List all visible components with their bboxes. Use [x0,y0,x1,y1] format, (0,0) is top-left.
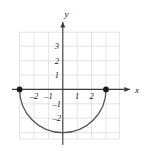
y-axis [60,22,65,145]
coordinate-plane: –2 –1 1 2 3 2 1 –1 –2 x y [0,0,147,151]
x-tick-label-2: 2 [89,91,94,101]
y-axis-arrowhead [60,22,65,28]
left-endpoint-dot [17,87,23,93]
graph-figure: –2 –1 1 2 3 2 1 –1 –2 x y [0,0,147,151]
y-axis-name-label: y [64,9,69,19]
right-endpoint-dot [103,87,109,93]
x-tick-label-1: 1 [75,91,79,101]
y-tick-label-neg1: –1 [52,99,62,109]
x-tick-label-neg1: –1 [43,91,53,101]
y-tick-label-neg2: –2 [52,113,62,123]
x-tick-label-neg2: –2 [29,91,39,101]
x-axis-name-label: x [134,85,139,95]
y-tick-label-3: 3 [54,41,59,51]
y-tick-label-1: 1 [55,70,59,80]
x-axis-arrowhead [124,87,130,92]
